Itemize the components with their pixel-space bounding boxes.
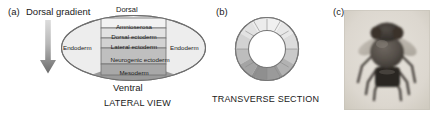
caption-transverse-section: TRANSVERSE SECTION bbox=[212, 95, 319, 104]
band-label-lateral-ectoderm: Lateral ectoderm bbox=[101, 44, 167, 51]
panel-a-lateral-view: (a) Dorsal gradient bbox=[0, 0, 206, 118]
dorsal-gradient-arrow bbox=[39, 20, 57, 74]
drosophila-fly-photo bbox=[344, 10, 430, 110]
band-label-mesoderm: Mesoderm bbox=[101, 70, 167, 77]
figure-root: (a) Dorsal gradient bbox=[0, 0, 437, 118]
panel-b-transverse-section: (b) bbox=[206, 0, 331, 118]
caption-lateral-view: LATERAL VIEW bbox=[104, 99, 171, 108]
panel-letter-b: (b) bbox=[216, 7, 228, 17]
panel-letter-c: (c) bbox=[333, 7, 344, 17]
label-endoderm-right: Endoderm bbox=[170, 45, 199, 51]
label-ventral: Ventral bbox=[113, 83, 143, 93]
label-endoderm-left: Endoderm bbox=[63, 45, 92, 51]
band-label-dorsal-ectoderm: Dorsal ectoderm bbox=[101, 34, 167, 41]
ring-inner-circle bbox=[249, 31, 286, 68]
transverse-section-ring bbox=[234, 16, 300, 82]
germ-layer-band-labels: Amnioserosa Dorsal ectoderm Lateral ecto… bbox=[101, 18, 167, 78]
panel-c-fly-photo: (c) bbox=[331, 0, 437, 118]
label-dorsal: Dorsal bbox=[116, 6, 138, 14]
band-label-amnioserosa: Amnioserosa bbox=[101, 24, 167, 31]
panel-letter-a: (a) bbox=[8, 7, 20, 17]
